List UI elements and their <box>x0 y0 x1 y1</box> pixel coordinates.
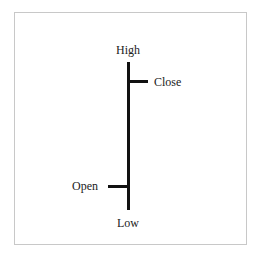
open-label: Open <box>72 179 98 193</box>
open-tick <box>108 185 128 188</box>
close-tick <box>129 80 148 83</box>
close-label: Close <box>154 75 181 89</box>
high-label: High <box>116 43 140 57</box>
low-label: Low <box>117 216 139 230</box>
